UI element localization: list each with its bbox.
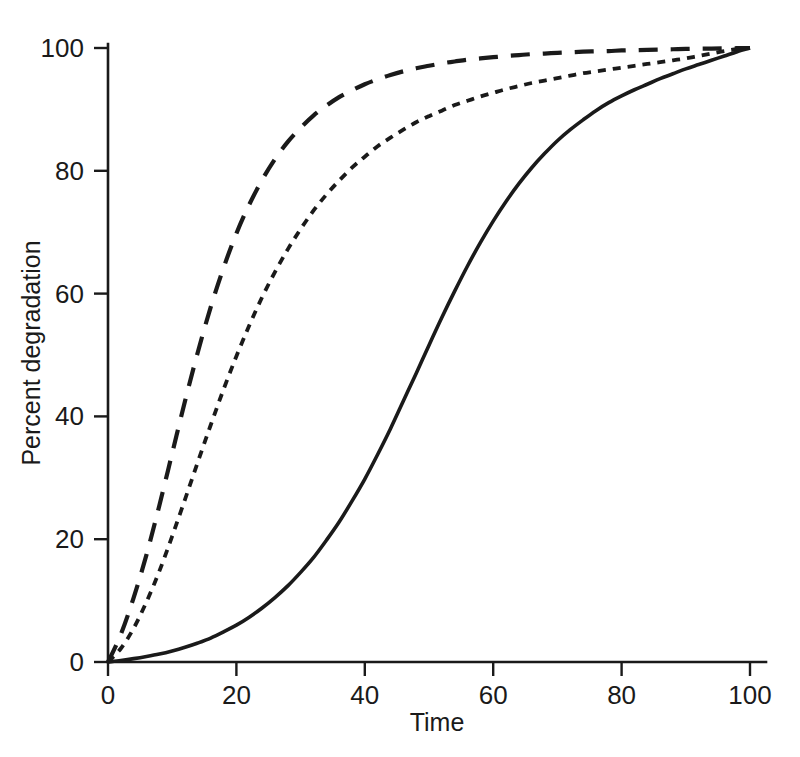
- x-tick-label: 100: [728, 680, 771, 710]
- x-tick-label: 60: [479, 680, 508, 710]
- x-tick-label: 40: [350, 680, 379, 710]
- plot-background: [0, 0, 800, 757]
- x-axis-title: Time: [410, 708, 465, 736]
- x-tick-label: 0: [101, 680, 115, 710]
- chart-figure: 020406080100 020406080100 Time Percent d…: [0, 0, 800, 757]
- x-tick-label: 20: [222, 680, 251, 710]
- y-tick-label: 60: [55, 279, 84, 309]
- y-tick-label: 40: [55, 401, 84, 431]
- x-tick-label: 80: [607, 680, 636, 710]
- y-tick-label: 80: [55, 156, 84, 186]
- y-axis-title: Percent degradation: [17, 240, 45, 465]
- y-tick-label: 100: [41, 33, 84, 63]
- line-chart-canvas: 020406080100 020406080100 Time Percent d…: [0, 0, 800, 757]
- y-tick-label: 20: [55, 524, 84, 554]
- y-tick-label: 0: [70, 647, 84, 677]
